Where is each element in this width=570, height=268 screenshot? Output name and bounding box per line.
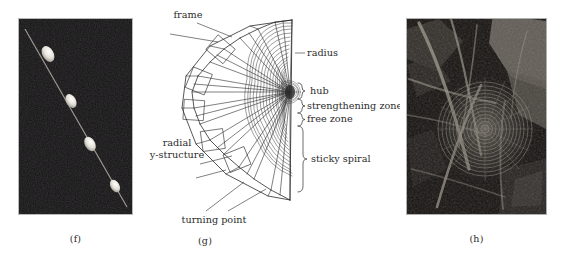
hub-core bbox=[285, 85, 295, 99]
label-strengthening-zone: strengthening zone bbox=[307, 100, 400, 111]
panel-h-shadow-tint bbox=[407, 19, 546, 214]
label-free-zone: free zone bbox=[307, 113, 353, 124]
label-sticky-spiral: sticky spiral bbox=[311, 153, 371, 164]
leader-frame-upper bbox=[197, 23, 232, 37]
label-radial-line1: radial bbox=[163, 137, 192, 148]
web-radii bbox=[192, 20, 292, 200]
panel-g-diagram: frame radius hub strengthening zone free… bbox=[140, 4, 400, 230]
brace-free-zone bbox=[298, 113, 305, 126]
leader-frame-lower bbox=[170, 34, 218, 42]
label-hub: hub bbox=[310, 85, 329, 96]
label-radius: radius bbox=[307, 47, 338, 58]
panel-h-photo bbox=[406, 18, 547, 215]
brace-sticky-spiral bbox=[298, 126, 307, 192]
brace-strengthening-zone bbox=[298, 99, 305, 113]
caption-f: (f) bbox=[18, 233, 133, 244]
figure-root: (f) bbox=[0, 0, 570, 268]
leader-radial-y-lower bbox=[196, 170, 226, 178]
brace-hub bbox=[298, 83, 305, 99]
panel-g-graphic: frame radius hub strengthening zone free… bbox=[140, 4, 400, 230]
panel-f-photo bbox=[18, 18, 133, 215]
panel-f-graphic bbox=[19, 19, 132, 214]
frame-threads bbox=[182, 20, 292, 200]
label-turning-point: turning point bbox=[182, 214, 247, 225]
leader-radial-y-upper bbox=[200, 156, 232, 164]
leader-turning-point-right bbox=[228, 189, 266, 211]
panel-h-graphic bbox=[407, 19, 546, 214]
caption-g: (g) bbox=[175, 235, 235, 246]
leader-turning-point-left bbox=[206, 182, 244, 211]
zone-braces bbox=[298, 83, 307, 192]
label-frame: frame bbox=[174, 9, 203, 20]
caption-h: (h) bbox=[406, 233, 547, 244]
label-radial-line2: y-structure bbox=[149, 149, 205, 160]
